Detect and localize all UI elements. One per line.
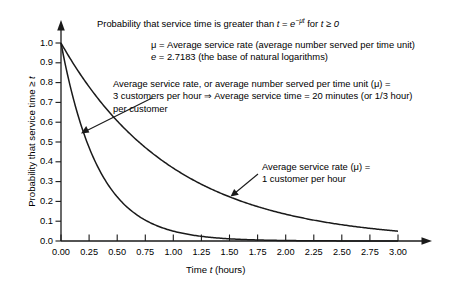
chart-title: Probability that service time is greater… (97, 15, 339, 31)
title-suffix: for (305, 18, 321, 29)
annotation-mu-3: Average service rate, or average number … (113, 78, 412, 115)
title-prefix: Probability that service time is greater… (97, 18, 277, 29)
y-tick-marks (56, 43, 62, 241)
x-tick-marks (61, 235, 398, 242)
definition-e: e = 2.7183 (the base of natural logarith… (151, 51, 415, 63)
x-axis-title-prefix: Time (186, 264, 210, 275)
annotation-mu3-line3: per customer (113, 103, 412, 115)
exponential-service-time-chart: Probability that service time is greater… (0, 0, 459, 285)
x-axis-title: Time t (hours) (186, 264, 245, 276)
y-axis-title: Probability that service time ≥ t (26, 47, 37, 237)
annotation-mu3-line2: 3 customers per hour ⇒ Average service t… (113, 90, 412, 102)
y-axis-title-prefix: Probability that service time ≥ (26, 79, 37, 207)
curve-mu-1 (61, 43, 398, 231)
annotation-mu-1: Average service rate (μ) = 1 customer pe… (262, 161, 370, 186)
title-condition: t ≥ 0 (321, 18, 339, 29)
title-exponent: −μt (295, 17, 304, 24)
mu1-leader-arrow (231, 174, 259, 197)
definition-e-text: = 2.7183 (the base of natural logarithms… (156, 51, 328, 62)
definitions-block: μ = Average service rate (average number… (151, 39, 415, 64)
y-axis-title-var: t (26, 76, 37, 79)
annotation-mu1-line1: Average service rate (μ) = (262, 161, 370, 173)
definition-mu: μ = Average service rate (average number… (151, 39, 415, 51)
annotation-mu3-line1: Average service rate, or average number … (113, 78, 412, 90)
x-axis-title-suffix: (hours) (212, 264, 245, 275)
title-equals: = (279, 18, 290, 29)
curve-mu-3 (61, 43, 398, 241)
annotation-mu1-line2: 1 customer per hour (262, 173, 370, 185)
x-tick-label: 3.00 (381, 247, 415, 257)
